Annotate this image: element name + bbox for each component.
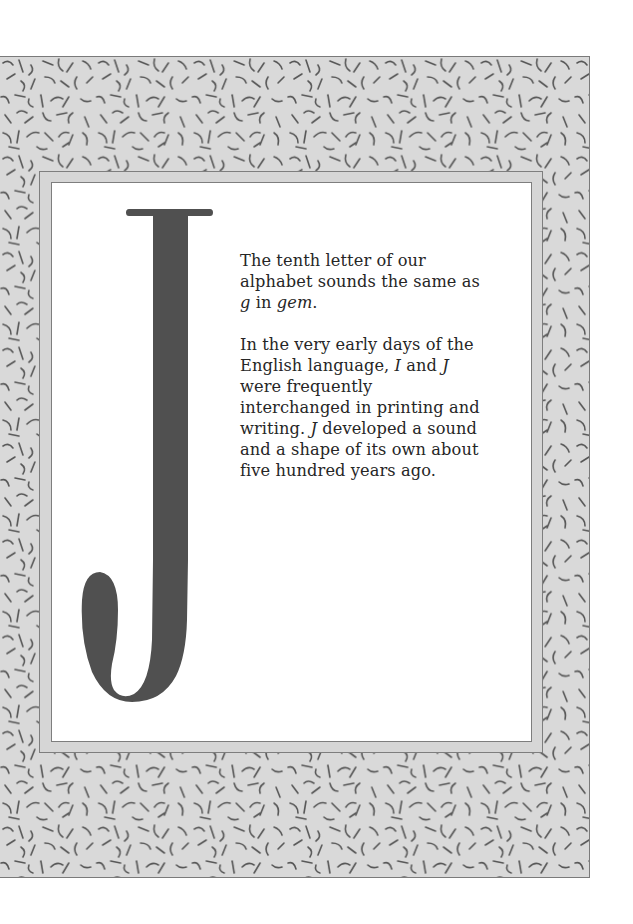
italic-segment: J — [442, 356, 449, 375]
letter-description: The tenth letter of our alphabet sounds … — [240, 250, 480, 502]
text-segment: in — [250, 293, 276, 312]
italic-segment: g — [240, 293, 250, 312]
italic-segment: gem — [277, 293, 313, 312]
text-segment: . — [312, 293, 317, 312]
paragraph-pronunciation: The tenth letter of our alphabet sounds … — [240, 250, 480, 313]
text-segment: The tenth letter of our alphabet sounds … — [240, 251, 480, 291]
text-segment: and — [401, 356, 442, 375]
paragraph-history: In the very early days of the English la… — [240, 334, 480, 481]
decorative-letter-j — [78, 205, 218, 705]
